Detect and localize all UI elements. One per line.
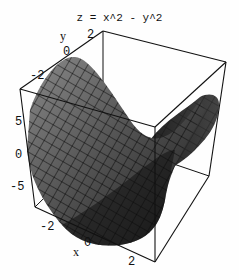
y-axis-label: y <box>60 29 66 43</box>
y-tick-2: 2 <box>87 28 94 42</box>
x-tick-neg2: -2 <box>40 220 54 234</box>
surface-plot: 2 0 -2 y 5 0 -5 -2 0 2 x <box>0 0 239 280</box>
x-tick-2: 2 <box>128 255 135 269</box>
y-tick-neg2: -2 <box>30 69 44 83</box>
x-axis-label: x <box>73 245 79 259</box>
z-tick-neg5: -5 <box>10 180 24 194</box>
x-tick-0: 0 <box>84 236 91 250</box>
z-tick-0: 0 <box>15 148 22 162</box>
y-tick-0: 0 <box>63 45 70 59</box>
z-tick-5: 5 <box>15 115 22 129</box>
saddle-surface <box>27 57 219 246</box>
